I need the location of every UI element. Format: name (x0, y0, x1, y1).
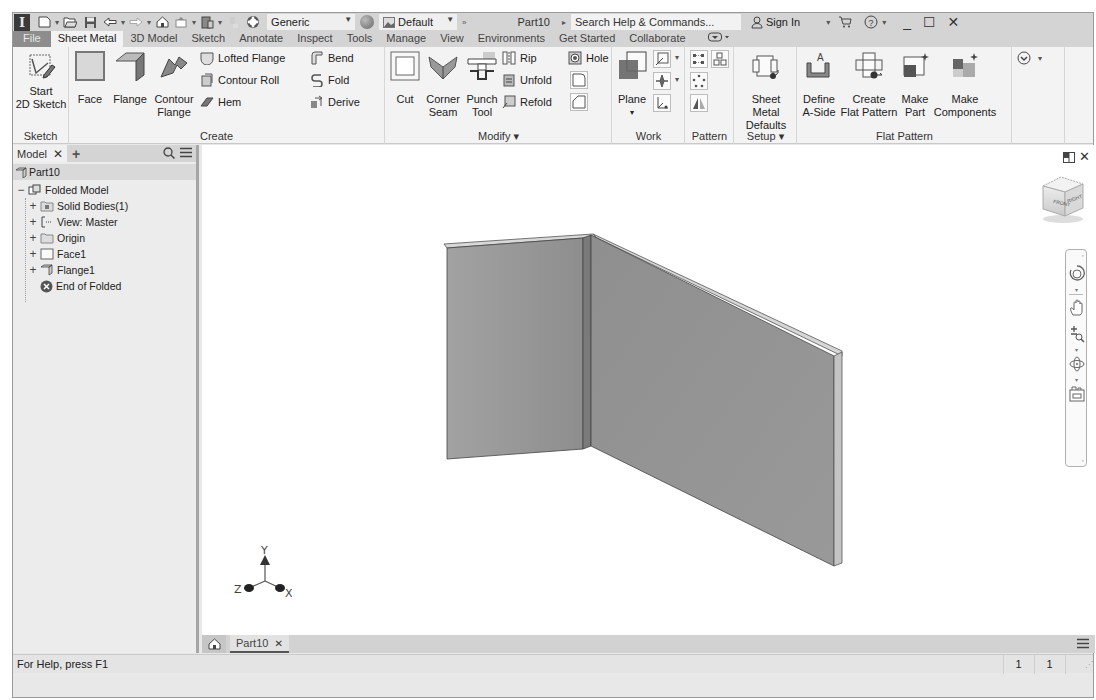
expand-icon[interactable]: + (29, 231, 37, 245)
tab-inspect[interactable]: Inspect (290, 31, 339, 47)
view-face-icon[interactable] (1068, 384, 1085, 404)
redo-icon[interactable] (128, 14, 144, 30)
mirror-button[interactable] (690, 94, 708, 112)
tree-item-folded-model[interactable]: − Folded Model (17, 182, 196, 198)
cart-icon[interactable] (837, 14, 853, 30)
corner-round-button[interactable] (570, 71, 588, 89)
tab-environments[interactable]: Environments (471, 31, 552, 47)
zoom-icon[interactable] (1068, 324, 1085, 344)
refold-button[interactable]: Refold (502, 94, 552, 110)
graphics-viewport[interactable]: ✕ FRONT RIGHT ◦ ▾ (202, 145, 1095, 635)
browser-tab-model[interactable]: Model ✕ (13, 145, 67, 162)
document-menu-icon[interactable] (1077, 638, 1089, 651)
tree-item-view-master[interactable]: + View: Master (17, 214, 196, 230)
tab-file[interactable]: File (13, 31, 51, 47)
navbar-resize-icon[interactable]: ◦ (1082, 457, 1084, 464)
save-icon[interactable] (82, 14, 98, 30)
contour-flange-button[interactable]: Contour Flange (152, 51, 196, 119)
expand-icon[interactable]: + (29, 215, 37, 229)
corner-seam-button[interactable]: Corner Seam (424, 51, 462, 119)
overflow-icon[interactable]: » (462, 18, 466, 27)
color-wheel-icon[interactable] (245, 14, 261, 30)
undo-icon[interactable] (102, 14, 118, 30)
document-tab-part10[interactable]: Part10 ✕ (230, 635, 289, 653)
ucs-button[interactable] (653, 94, 671, 112)
sign-in-button[interactable]: Sign In (751, 16, 800, 29)
update-dropdown-icon[interactable]: ▾ (192, 18, 196, 27)
plane-button[interactable]: Plane ▾ (615, 51, 649, 119)
tab-annotate[interactable]: Annotate (232, 31, 290, 47)
app-logo[interactable]: I (14, 14, 30, 31)
expand-icon[interactable]: + (29, 247, 37, 261)
corner-chamfer-button[interactable] (570, 93, 588, 111)
close-icon[interactable]: ✕ (53, 147, 63, 161)
tree-root-part[interactable]: Part10 (13, 164, 196, 180)
minimize-button[interactable]: _ (897, 14, 917, 30)
help-icon[interactable]: ? (863, 14, 879, 30)
tab-view[interactable]: View (433, 31, 471, 47)
tree-item-end-of-folded[interactable]: End of Folded (17, 278, 196, 294)
point-dropdown-icon[interactable]: ▾ (675, 75, 679, 84)
bend-button[interactable]: Bend (310, 50, 354, 66)
maximize-button[interactable]: ☐ (917, 14, 942, 30)
undo-dropdown-icon[interactable]: ▾ (121, 18, 125, 27)
pan-hand-icon[interactable] (1068, 298, 1085, 318)
home-tab[interactable] (202, 635, 226, 653)
sheet-metal-defaults-button[interactable]: Sheet Metal Defaults (737, 51, 795, 132)
split-view-icon[interactable] (1063, 152, 1075, 165)
circular-pattern-button[interactable] (690, 72, 708, 90)
orbit-dropdown-icon[interactable]: ▾ (1075, 376, 1078, 383)
search-icon[interactable] (163, 147, 175, 161)
rip-button[interactable]: Rip (502, 50, 537, 66)
mirror-pattern-button[interactable] (711, 50, 729, 68)
punch-tool-button[interactable]: Punch Tool (464, 51, 500, 119)
tab-3d-model[interactable]: 3D Model (123, 31, 184, 47)
material-globe-icon[interactable] (360, 15, 374, 29)
make-components-button[interactable]: Make Components (934, 51, 996, 119)
sign-in-dropdown-icon[interactable]: ▾ (826, 18, 830, 27)
tree-item-face1[interactable]: + Face1 (17, 246, 196, 262)
viewcube[interactable]: FRONT RIGHT (1037, 173, 1089, 227)
help-search-input[interactable]: Search Help & Commands... (571, 14, 741, 30)
close-button[interactable]: ✕ (942, 14, 966, 30)
resize-grip-icon[interactable]: ⋰ (1065, 655, 1095, 674)
cut-button[interactable]: Cut (388, 51, 422, 106)
appearance-select[interactable]: Generic ▼ (267, 14, 355, 30)
open-folder-icon[interactable] (62, 14, 78, 30)
material-select[interactable]: Default ▼ (379, 14, 457, 30)
axis-dropdown-icon[interactable]: ▾ (675, 53, 679, 62)
face-button[interactable]: Face (72, 51, 108, 106)
select-priority-icon[interactable] (225, 14, 241, 30)
steering-wheel-icon[interactable] (1068, 264, 1085, 284)
measure-dropdown-icon[interactable]: ▾ (218, 18, 222, 27)
rectangular-pattern-button[interactable] (690, 50, 708, 68)
tree-item-solid-bodies[interactable]: + Solid Bodies(1) (17, 198, 196, 214)
create-flat-pattern-button[interactable]: Create Flat Pattern (840, 51, 898, 119)
hem-button[interactable]: Hem (200, 94, 241, 110)
panel-title-setup[interactable]: Setup ▾ (735, 129, 796, 144)
add-browser-button[interactable]: + (72, 146, 80, 162)
derive-button[interactable]: Derive (310, 94, 360, 110)
panel-title-modify[interactable]: Modify ▾ (386, 129, 611, 144)
lofted-flange-button[interactable]: Lofted Flange (200, 50, 285, 66)
close-tab-icon[interactable]: ✕ (274, 638, 282, 649)
contour-roll-button[interactable]: Contour Roll (200, 72, 279, 88)
expand-icon[interactable]: + (29, 199, 37, 213)
define-a-side-button[interactable]: A Define A-Side (800, 51, 838, 119)
start-2d-sketch-button[interactable]: Start 2D Sketch (15, 51, 67, 111)
nav-dropdown-icon[interactable]: ▾ (1075, 286, 1078, 293)
more-tools-button[interactable]: ▾ (1017, 50, 1045, 66)
navbar-options-icon[interactable]: ◦ (1082, 252, 1084, 259)
menu-icon[interactable] (180, 147, 192, 160)
measure-icon[interactable] (199, 14, 215, 30)
point-button[interactable] (653, 72, 671, 90)
tab-get-started[interactable]: Get Started (552, 31, 622, 47)
update-icon[interactable] (173, 14, 189, 30)
make-part-button[interactable]: Make Part (898, 51, 932, 119)
orbit-icon[interactable] (1068, 354, 1085, 374)
help-dropdown-icon[interactable]: ▾ (882, 18, 886, 27)
home-icon[interactable] (154, 14, 170, 30)
new-dropdown-icon[interactable]: ▾ (55, 18, 59, 27)
sheet-metal-part-model[interactable] (202, 145, 1095, 635)
axis-button[interactable] (653, 50, 671, 68)
